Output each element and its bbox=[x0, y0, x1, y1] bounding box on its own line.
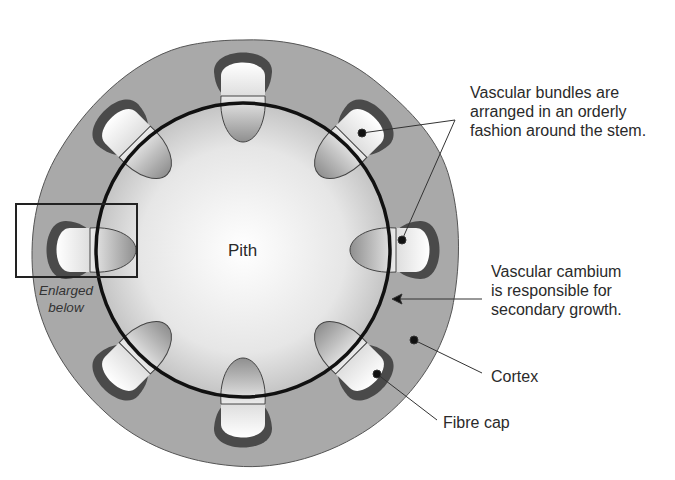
annotation-vascular-bundles: Vascular bundles are arranged in an orde… bbox=[470, 83, 646, 140]
annotation-line: Vascular bundles are bbox=[470, 83, 646, 102]
annotation-cortex: Cortex bbox=[491, 367, 538, 386]
annotation-line: fashion around the stem. bbox=[470, 121, 646, 140]
enlarge-caption: Enlarged below bbox=[34, 282, 98, 316]
pointer-dot bbox=[373, 370, 381, 378]
annotation-line: Fibre cap bbox=[443, 413, 510, 432]
annotation-vascular-cambium: Vascular cambium is responsible for seco… bbox=[491, 262, 622, 319]
annotation-line: arranged in an orderly bbox=[470, 102, 646, 121]
annotation-line: secondary growth. bbox=[491, 300, 622, 319]
annotation-line: is responsible for bbox=[491, 281, 622, 300]
annotation-line: Vascular cambium bbox=[491, 262, 622, 281]
enlarge-caption-line: below bbox=[34, 299, 98, 316]
pointer-dot bbox=[398, 236, 406, 244]
annotation-line: Cortex bbox=[491, 367, 538, 386]
stem-cross-section-diagram: Pith Enlarged below Vascular bundles are… bbox=[0, 0, 675, 480]
annotation-fibre-cap: Fibre cap bbox=[443, 413, 510, 432]
pointer-dot bbox=[358, 129, 366, 137]
pointer-dot bbox=[410, 336, 418, 344]
enlarge-caption-line: Enlarged bbox=[34, 282, 98, 299]
pith-label: Pith bbox=[228, 241, 257, 260]
